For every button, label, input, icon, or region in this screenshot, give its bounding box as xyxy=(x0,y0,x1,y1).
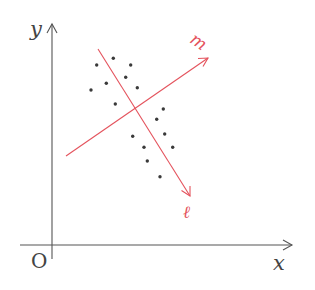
scatter-point xyxy=(171,146,174,149)
scatter-points xyxy=(89,57,174,179)
x-axis xyxy=(20,240,292,250)
scatter-point xyxy=(114,102,117,105)
scatter-point xyxy=(146,159,149,162)
line-l xyxy=(98,49,190,196)
scatter-diagram: y x O ℓ m xyxy=(0,0,315,290)
scatter-point xyxy=(136,86,139,89)
scatter-point xyxy=(163,132,166,135)
scatter-point xyxy=(155,118,158,121)
origin-label: O xyxy=(31,249,47,273)
y-axis xyxy=(47,24,57,259)
scatter-point xyxy=(95,63,98,66)
scatter-point xyxy=(158,175,161,178)
line-l-label: ℓ xyxy=(183,202,190,222)
line-l-segment xyxy=(98,49,190,196)
scatter-point xyxy=(131,135,134,138)
line-m-segment xyxy=(66,58,208,156)
scatter-point xyxy=(89,88,92,91)
scatter-point xyxy=(142,146,145,149)
scatter-point xyxy=(105,82,108,85)
scatter-point xyxy=(124,76,127,79)
scatter-point xyxy=(162,107,165,110)
y-axis-label: y xyxy=(29,17,43,41)
x-axis-label: x xyxy=(273,251,285,275)
scatter-point xyxy=(112,57,115,60)
line-m-label: m xyxy=(186,29,211,55)
scatter-point xyxy=(129,63,132,66)
line-m xyxy=(66,58,208,156)
